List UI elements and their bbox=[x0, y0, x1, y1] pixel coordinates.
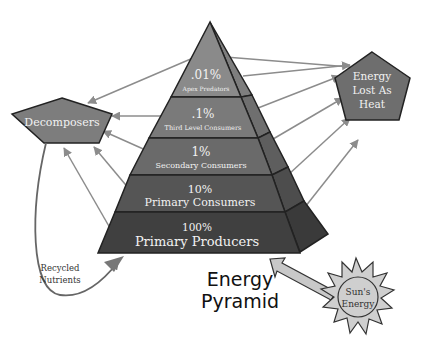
producers-name: Primary Producers bbox=[135, 234, 259, 249]
primary-cons-name: Primary Consumers bbox=[145, 196, 256, 209]
primary-cons-percent: 10% bbox=[188, 183, 212, 196]
title-line2: Pyramid bbox=[201, 290, 279, 312]
third-name: Third Level Consumers bbox=[165, 124, 242, 132]
heat-line1: Energy bbox=[353, 70, 391, 82]
recycled-line1: Recycled bbox=[41, 263, 81, 273]
energy-pyramid-diagram: .01% Apex Predators .1% Third Level Cons… bbox=[0, 0, 424, 360]
apex-percent: .01% bbox=[191, 68, 222, 82]
title-line1: Energy bbox=[207, 268, 274, 290]
sun-icon: Sun's Energy bbox=[321, 258, 394, 334]
sun-line1: Sun's bbox=[346, 287, 371, 297]
sun-energy-arrow bbox=[270, 258, 336, 300]
heat-node: Energy Lost As Heat bbox=[335, 52, 410, 120]
producers-percent: 100% bbox=[182, 221, 212, 233]
decomposers-node: Decomposers bbox=[12, 98, 112, 143]
heat-line3: Heat bbox=[359, 98, 386, 110]
decomposers-label: Decomposers bbox=[24, 116, 100, 129]
heat-line2: Lost As bbox=[352, 84, 391, 96]
recycled-arrowhead bbox=[104, 256, 124, 272]
recycled-line2: Nutrients bbox=[39, 275, 80, 285]
apex-name: Apex Predators bbox=[182, 85, 230, 93]
secondary-name: Secondary Consumers bbox=[155, 161, 246, 170]
sun-line2: Energy bbox=[342, 299, 376, 309]
secondary-percent: 1% bbox=[191, 145, 210, 159]
third-percent: .1% bbox=[192, 107, 215, 121]
